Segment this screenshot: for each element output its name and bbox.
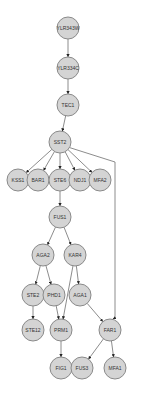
edge-far1-to-fus3 — [89, 339, 104, 359]
edge-fus1-to-aga2 — [47, 227, 55, 245]
node-label: BAR1 — [31, 177, 44, 183]
node-far1[interactable]: FAR1 — [99, 319, 121, 341]
node-ste2[interactable]: STE2 — [22, 284, 44, 306]
edge-far1-to-mfa1 — [111, 341, 113, 357]
node-aga2[interactable]: AGA2 — [32, 244, 54, 266]
node-label: SST2 — [54, 139, 67, 145]
node-mfa2[interactable]: MFA2 — [89, 169, 111, 191]
node-ste6[interactable]: STE6 — [49, 169, 71, 191]
node-label: YLR334C — [57, 65, 79, 71]
node-kar4[interactable]: KAR4 — [64, 244, 86, 266]
node-label: STE6 — [54, 177, 67, 183]
node-aga1[interactable]: AGA1 — [69, 284, 91, 306]
node-phd1[interactable]: PHD1 — [43, 284, 65, 306]
network-diagram: YLR343WYLR334CTEC1SST2KSS1BAR1STE6NDJ1MF… — [0, 0, 147, 398]
node-label: FAR1 — [104, 327, 117, 333]
node-ylr334c[interactable]: YLR334C — [57, 57, 79, 79]
node-label: MFA2 — [93, 177, 106, 183]
node-label: FUS1 — [54, 214, 67, 220]
edge-aga2-to-phd1 — [46, 266, 51, 285]
node-fus3[interactable]: FUS3 — [71, 357, 93, 379]
edge-kar4-to-aga1 — [76, 266, 78, 284]
node-label: STE2 — [27, 292, 40, 298]
node-sst2[interactable]: SST2 — [49, 131, 71, 153]
edge-fus1-to-kar4 — [64, 227, 71, 245]
node-label: FUS3 — [76, 365, 89, 371]
node-layer: YLR343WYLR334CTEC1SST2KSS1BAR1STE6NDJ1MF… — [7, 17, 126, 379]
node-label: PHD1 — [47, 292, 61, 298]
edge-layer — [26, 39, 115, 359]
node-label: PRM1 — [54, 327, 68, 333]
edge-phd1-to-prm1 — [56, 306, 59, 319]
edge-aga2-to-ste2 — [36, 266, 41, 285]
edge-tec1-to-sst2 — [62, 116, 65, 131]
node-fus1[interactable]: FUS1 — [49, 206, 71, 228]
node-label: AGA2 — [36, 252, 50, 258]
node-label: KSS1 — [12, 177, 25, 183]
node-label: AGA1 — [73, 292, 87, 298]
edge-sst2-to-bar1 — [44, 152, 55, 171]
node-ste12[interactable]: STE12 — [22, 319, 44, 341]
node-ylr343w[interactable]: YLR343W — [57, 17, 80, 39]
node-label: KAR4 — [68, 252, 81, 258]
node-prm1[interactable]: PRM1 — [50, 319, 72, 341]
node-label: STE12 — [25, 327, 41, 333]
node-tec1[interactable]: TEC1 — [57, 94, 79, 116]
node-ndj1[interactable]: NDJ1 — [69, 169, 91, 191]
node-kss1[interactable]: KSS1 — [7, 169, 29, 191]
node-fig1[interactable]: FIG1 — [50, 357, 72, 379]
node-mfa1[interactable]: MFA1 — [104, 357, 126, 379]
node-label: MFA1 — [108, 365, 121, 371]
node-bar1[interactable]: BAR1 — [27, 169, 49, 191]
node-label: TEC1 — [62, 102, 75, 108]
node-label: YLR343W — [57, 25, 80, 31]
node-label: FIG1 — [55, 365, 66, 371]
node-label: NDJ1 — [74, 177, 87, 183]
edge-aga1-to-far1 — [87, 303, 103, 321]
